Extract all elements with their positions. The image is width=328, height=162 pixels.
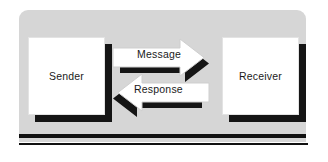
diagram-canvas: Message Response Sender Receiver bbox=[0, 0, 328, 162]
node-sender: Sender bbox=[28, 37, 105, 115]
node-sender-label: Sender bbox=[49, 70, 84, 82]
node-receiver: Receiver bbox=[222, 37, 299, 115]
bottom-rule-thin bbox=[19, 143, 308, 145]
node-receiver-label: Receiver bbox=[239, 70, 282, 82]
bottom-rule-thick bbox=[19, 134, 306, 138]
arrow-response-label: Response bbox=[134, 83, 183, 95]
arrow-message-label: Message bbox=[137, 48, 181, 60]
